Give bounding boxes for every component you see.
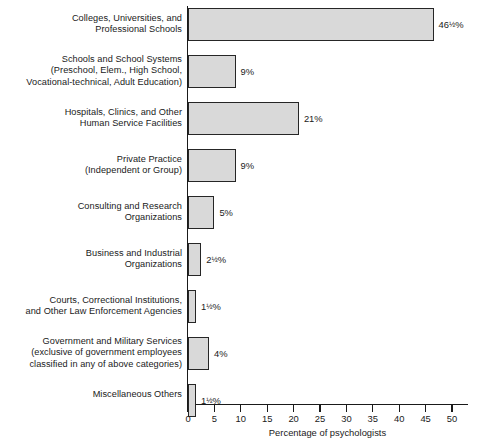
- bar-3: [188, 149, 236, 182]
- x-tick-45: [425, 405, 426, 412]
- bar-0: [188, 8, 434, 41]
- bar-2: [188, 102, 299, 135]
- x-tick-40: [399, 405, 400, 412]
- x-tick-label-35: 35: [361, 413, 385, 424]
- bar-value-label-6: 1½%: [201, 290, 221, 323]
- bar-value-label-7: 4%: [214, 337, 228, 370]
- x-tick-label-30: 30: [334, 413, 358, 424]
- x-tick-label-25: 25: [308, 413, 332, 424]
- plot-area: 05101520253035404550 46½%9%21%9%5%2½%1½%…: [0, 0, 484, 445]
- bar-4: [188, 196, 214, 229]
- bar-5: [188, 243, 201, 276]
- x-tick-10: [240, 405, 241, 412]
- bar-value-label-8: 1½%: [201, 384, 221, 417]
- x-tick-15: [267, 405, 268, 412]
- bar-8: [188, 384, 196, 417]
- x-axis-title: Percentage of psychologists: [187, 427, 468, 438]
- x-tick-label-20: 20: [282, 413, 306, 424]
- bar-value-label-3: 9%: [241, 149, 255, 182]
- bar-value-label-4: 5%: [219, 196, 233, 229]
- bar-chart: Colleges, Universities, and Professional…: [0, 0, 484, 445]
- x-tick-35: [372, 405, 373, 412]
- x-tick-20: [293, 405, 294, 412]
- x-tick-25: [319, 405, 320, 412]
- bar-7: [188, 337, 209, 370]
- bar-6: [188, 290, 196, 323]
- x-tick-label-45: 45: [414, 413, 438, 424]
- x-tick-50: [451, 405, 452, 412]
- x-tick-label-40: 40: [387, 413, 411, 424]
- bar-value-label-1: 9%: [241, 55, 255, 88]
- bar-value-label-5: 2½%: [206, 243, 226, 276]
- bar-value-label-2: 21%: [304, 102, 323, 135]
- x-tick-label-15: 15: [255, 413, 279, 424]
- x-tick-30: [346, 405, 347, 412]
- x-tick-label-50: 50: [440, 413, 464, 424]
- x-tick-label-10: 10: [229, 413, 253, 424]
- bar-value-label-0: 46½%: [439, 8, 464, 41]
- bar-1: [188, 55, 236, 88]
